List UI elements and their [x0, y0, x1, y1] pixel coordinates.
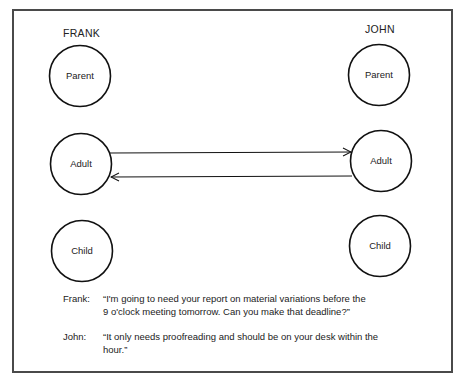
- frank-parent-label: Parent: [49, 70, 111, 81]
- frank-child-label: Child: [51, 245, 113, 256]
- john-adult-label: Adult: [350, 155, 412, 166]
- john-speaker-label: John:: [63, 330, 99, 343]
- frank-adult-label: Adult: [50, 158, 112, 169]
- arrow-john-to-frank: [111, 176, 352, 177]
- john-parent-label: Parent: [348, 69, 410, 80]
- john-dialogue-text: “It only needs proofreading and should b…: [103, 330, 433, 356]
- arrow-frank-to-john: [110, 152, 351, 153]
- frank-speaker-label: Frank:: [63, 292, 99, 305]
- frank-dialogue-text: “I'm going to need your report on materi…: [103, 292, 433, 318]
- frank-name-label: FRANK: [63, 27, 100, 39]
- john-name-label: JOHN: [365, 23, 395, 35]
- john-child-label: Child: [349, 240, 411, 251]
